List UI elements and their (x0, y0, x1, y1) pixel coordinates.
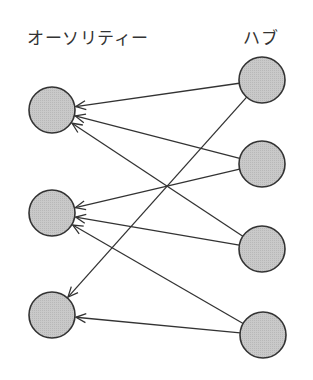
edge-h2-to-a1 (75, 114, 239, 158)
edges (68, 83, 247, 333)
edge-h1-to-a3 (68, 97, 247, 297)
hub-node-h4 (240, 312, 286, 358)
hub-authority-graph (0, 0, 313, 380)
nodes (29, 57, 286, 358)
edge-h2-to-a2 (75, 169, 239, 209)
authority-node-a3 (29, 292, 75, 338)
edge-h3-to-a1 (72, 123, 243, 236)
hub-node-h1 (239, 57, 285, 103)
hub-node-h2 (239, 141, 285, 187)
arrowhead-icon (73, 225, 84, 234)
edge-h1-to-a1 (76, 83, 239, 109)
edge-h4-to-a3 (76, 314, 240, 333)
authority-node-a2 (29, 190, 75, 236)
arrowhead-icon (72, 123, 83, 132)
hub-node-h3 (239, 226, 285, 272)
authority-node-a1 (29, 87, 75, 133)
edge-h4-to-a2 (73, 225, 243, 323)
